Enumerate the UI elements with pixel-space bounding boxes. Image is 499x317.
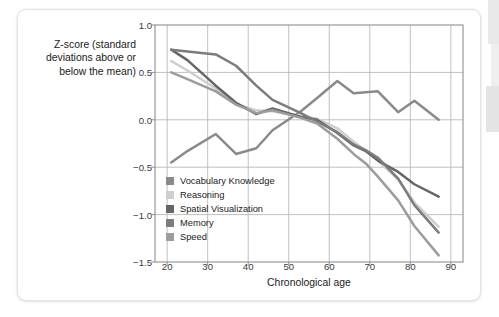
- legend-item: Reasoning: [166, 189, 275, 201]
- plot-area: [0, 0, 499, 317]
- x-axis-title: Chronological age: [155, 277, 463, 288]
- legend-item: Memory: [166, 217, 275, 229]
- legend-item-label: Memory: [180, 218, 214, 228]
- legend-swatch-icon: [166, 219, 174, 227]
- legend-swatch-icon: [166, 205, 174, 213]
- legend-swatch-icon: [166, 177, 174, 185]
- legend-item-label: Vocabulary Knowledge: [180, 176, 275, 186]
- legend-item-label: Spatial Visualization: [180, 204, 263, 214]
- legend-item-label: Reasoning: [180, 190, 224, 200]
- legend-item-label: Speed: [180, 232, 207, 242]
- chart-legend: Vocabulary KnowledgeReasoningSpatial Vis…: [166, 175, 275, 243]
- legend-item: Vocabulary Knowledge: [166, 175, 275, 187]
- legend-item: Speed: [166, 231, 275, 243]
- legend-item: Spatial Visualization: [166, 203, 275, 215]
- line-chart: Z-score (standard deviations above or be…: [0, 0, 499, 317]
- legend-swatch-icon: [166, 233, 174, 241]
- legend-swatch-icon: [166, 191, 174, 199]
